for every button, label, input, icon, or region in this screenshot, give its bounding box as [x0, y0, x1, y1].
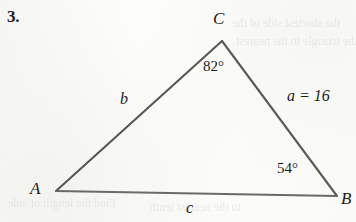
vertex-label-a: A: [30, 180, 40, 197]
problem-number: 3.: [7, 8, 19, 25]
worksheet-figure-page: the shortest side of the the triangle to…: [0, 0, 356, 222]
side-label-c: c: [186, 200, 193, 216]
vertex-label-c: C: [213, 10, 224, 27]
side-label-b: b: [120, 91, 128, 107]
side-label-a: a = 16: [287, 88, 330, 104]
triangle-side-c-segment-AB: [56, 191, 337, 196]
triangle-side-b-segment-AC: [56, 41, 222, 191]
angle-label-at-b: 54°: [277, 161, 298, 176]
angle-label-at-c: 82°: [203, 59, 224, 74]
vertex-label-b: B: [341, 190, 351, 207]
triangle-diagram: [0, 0, 356, 222]
